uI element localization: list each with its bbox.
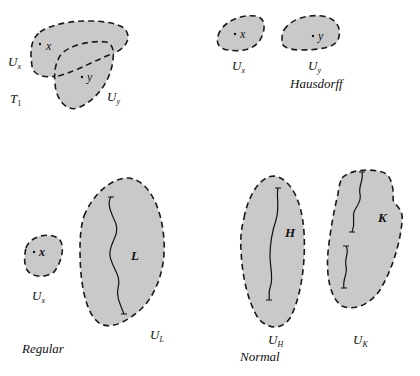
normal-panel: H K UH UK Normal <box>239 170 402 364</box>
t1-point-y <box>81 76 83 78</box>
regular-region-ul <box>80 178 164 326</box>
normal-caption: Normal <box>239 349 280 364</box>
hausdorff-label-y: y <box>317 29 324 43</box>
regular-label-L: L <box>130 248 139 263</box>
normal-region-uh <box>241 176 305 327</box>
separation-axioms-diagram: x y Ux Uy T1 x y Ux Uy Hausdorff x L Ux … <box>0 0 420 376</box>
hausdorff-label-uy: Uy <box>308 58 321 75</box>
regular-label-ul: UL <box>150 327 164 344</box>
normal-region-uk <box>328 170 403 308</box>
normal-label-K: K <box>377 210 388 225</box>
t1-label-x: x <box>45 39 52 53</box>
normal-label-H: H <box>284 225 296 240</box>
regular-caption: Regular <box>21 341 65 356</box>
hausdorff-caption: Hausdorff <box>289 76 345 91</box>
t1-caption: T1 <box>10 91 21 108</box>
hausdorff-point-x <box>234 33 236 35</box>
normal-label-uk: UK <box>353 332 368 349</box>
normal-label-uh: UH <box>268 332 284 349</box>
hausdorff-label-ux: Ux <box>232 58 245 75</box>
regular-panel: x L Ux UL Regular <box>21 178 164 356</box>
t1-label-uy: Uy <box>107 89 120 106</box>
t1-panel: x y Ux Uy T1 <box>8 21 128 109</box>
t1-label-ux: Ux <box>8 54 21 71</box>
hausdorff-label-x: x <box>239 27 246 41</box>
hausdorff-point-y <box>312 35 314 37</box>
regular-point-x <box>33 251 35 253</box>
regular-label-x: x <box>38 245 45 259</box>
hausdorff-panel: x y Ux Uy Hausdorff <box>217 16 345 91</box>
t1-point-x <box>39 43 41 45</box>
regular-label-ux: Ux <box>32 288 45 305</box>
hausdorff-region-uy <box>282 16 340 50</box>
t1-label-y: y <box>86 70 93 84</box>
